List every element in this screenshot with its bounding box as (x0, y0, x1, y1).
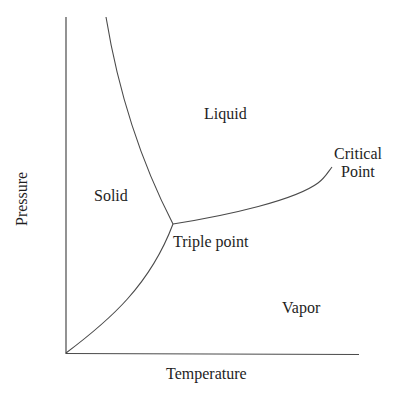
sublimation-curve (66, 224, 173, 353)
critical-point-label-line2: Point (341, 164, 375, 180)
region-liquid-label: Liquid (204, 106, 247, 122)
triple-point-label: Triple point (173, 234, 248, 250)
region-solid-label: Solid (94, 188, 128, 204)
vaporization-curve (173, 167, 332, 224)
y-axis-label: Pressure (14, 172, 30, 226)
phase-diagram (0, 0, 413, 400)
x-axis (66, 354, 359, 355)
region-vapor-label: Vapor (282, 300, 320, 316)
x-axis-label: Temperature (166, 366, 247, 382)
critical-point-label-line1: Critical (334, 146, 382, 162)
